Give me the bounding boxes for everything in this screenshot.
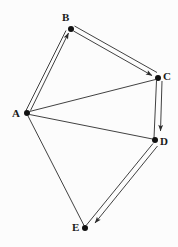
node-label-a: A bbox=[12, 108, 20, 119]
edge-d-e-line-arrow bbox=[95, 146, 158, 223]
node-c[interactable] bbox=[155, 75, 161, 81]
edge-c-d-line-outer bbox=[154, 81, 157, 139]
node-a[interactable] bbox=[24, 110, 30, 116]
edge-c-d bbox=[154, 81, 162, 139]
node-label-d: D bbox=[160, 136, 168, 147]
edge-b-c-line-arrow bbox=[74, 31, 153, 76]
node-label-e: E bbox=[72, 222, 79, 233]
nodes-group bbox=[24, 26, 161, 231]
edge-a-c bbox=[30, 80, 156, 112]
edge-b-c-line-outer bbox=[75, 26, 158, 73]
edge-a-b-line-arrow bbox=[31, 33, 69, 111]
edge-a-e bbox=[28, 116, 84, 226]
edge-d-e-line-outer bbox=[87, 144, 154, 226]
edge-d-e bbox=[87, 144, 158, 226]
node-label-b: B bbox=[62, 12, 69, 23]
diagram-canvas: A B C D E bbox=[0, 0, 178, 247]
graph-figure bbox=[0, 0, 178, 247]
edge-c-d-line-arrow bbox=[161, 81, 163, 131]
edge-a-b bbox=[26, 31, 69, 111]
edge-a-b-line-outer bbox=[26, 31, 66, 111]
edge-b-c bbox=[74, 26, 158, 76]
edges-group bbox=[26, 26, 162, 226]
node-label-c: C bbox=[163, 71, 171, 82]
edge-a-d bbox=[30, 115, 153, 140]
node-b[interactable] bbox=[68, 26, 74, 32]
node-e[interactable] bbox=[82, 225, 88, 231]
node-d[interactable] bbox=[152, 137, 158, 143]
